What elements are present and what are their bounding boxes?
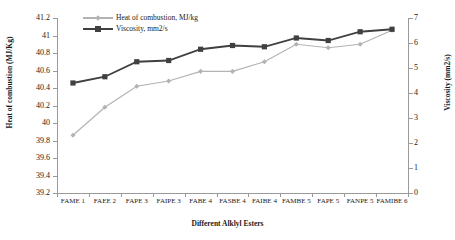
diamond-marker-icon [166, 78, 171, 83]
chart-container: Heat of combustion, MJ/kg Viscosity, mm2… [0, 0, 455, 240]
square-marker-icon [230, 43, 235, 48]
square-marker-icon [262, 44, 267, 49]
diamond-marker-icon [326, 45, 331, 50]
square-marker-icon [326, 38, 331, 43]
square-marker-icon [198, 47, 203, 52]
diamond-marker-icon [262, 59, 267, 64]
chart-series-layer [0, 0, 455, 240]
square-marker-icon [134, 59, 139, 64]
square-marker-icon [102, 74, 107, 79]
series-line-2 [73, 29, 392, 83]
y-axis-right-title: Viscosity (mm2/s) [443, 8, 452, 158]
square-marker-icon [358, 29, 363, 34]
square-marker-icon [166, 58, 171, 63]
square-marker-icon [70, 80, 75, 85]
diamond-marker-icon [230, 69, 235, 74]
diamond-marker-icon [294, 42, 299, 47]
x-axis-title: Different Alklyl Esters [0, 219, 455, 228]
diamond-marker-icon [358, 42, 363, 47]
square-marker-icon [294, 35, 299, 40]
diamond-marker-icon [198, 69, 203, 74]
square-marker-icon [389, 27, 394, 32]
y-axis-left-title: Heat of combustion (MJ/Kg) [5, 8, 14, 158]
